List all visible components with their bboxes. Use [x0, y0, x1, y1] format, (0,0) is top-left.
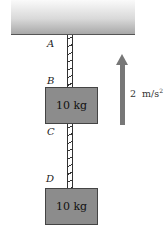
acceleration-arrow-icon	[120, 64, 125, 125]
point-a-label: A	[47, 38, 54, 49]
acceleration-exponent: 2	[159, 87, 163, 94]
lower-block: 10 kg	[45, 188, 98, 225]
point-b-label: B	[47, 75, 54, 86]
ceiling	[11, 0, 135, 34]
point-d-label: D	[46, 173, 54, 184]
acceleration-label: 2 m/s2	[130, 87, 163, 99]
lower-rope	[67, 124, 73, 189]
upper-block: 10 kg	[45, 87, 98, 124]
upper-rope	[67, 35, 73, 88]
point-c-label: C	[47, 126, 55, 137]
ceiling-edge	[11, 34, 135, 35]
acceleration-value: 2	[130, 88, 136, 99]
upper-block-mass: 10 kg	[56, 99, 87, 112]
lower-block-mass: 10 kg	[56, 200, 87, 213]
acceleration-unit: m/s	[142, 88, 159, 99]
